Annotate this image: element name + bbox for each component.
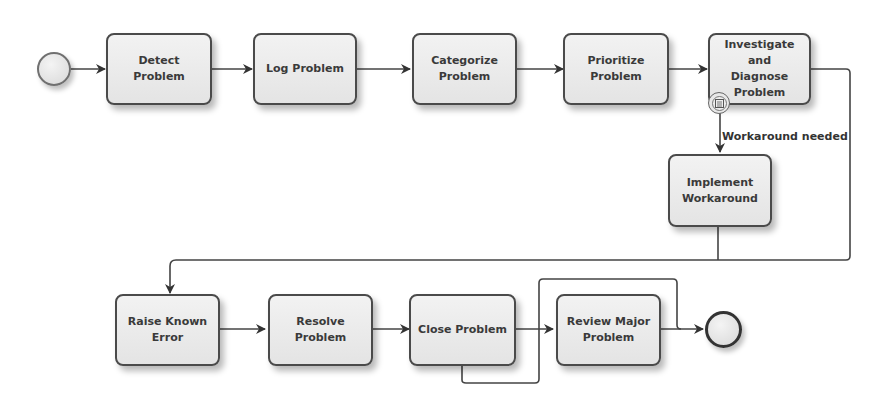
condition-label-workaround-needed: Workaround needed: [722, 130, 848, 143]
task-log-problem[interactable]: Log Problem: [253, 33, 357, 105]
task-review-major-problem[interactable]: Review Major Problem: [556, 294, 661, 366]
task-raise-known-error[interactable]: Raise Known Error: [115, 294, 220, 366]
task-resolve-problem[interactable]: Resolve Problem: [268, 294, 373, 366]
conditional-icon: [712, 96, 727, 111]
process-diagram: Detect Problem Log Problem Categorize Pr…: [0, 0, 891, 410]
task-close-problem[interactable]: Close Problem: [409, 294, 516, 366]
task-categorize-problem[interactable]: Categorize Problem: [412, 33, 517, 105]
task-detect-problem[interactable]: Detect Problem: [106, 33, 212, 105]
start-event[interactable]: [37, 52, 71, 86]
end-event[interactable]: [705, 311, 742, 348]
task-prioritize-problem[interactable]: Prioritize Problem: [563, 33, 669, 105]
task-implement-workaround[interactable]: Implement Workaround: [668, 154, 772, 227]
boundary-conditional-event[interactable]: [708, 92, 730, 114]
